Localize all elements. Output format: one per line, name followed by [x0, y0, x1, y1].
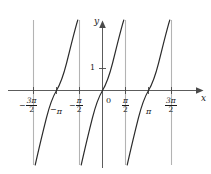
minus-sign: −: [69, 102, 76, 110]
minus-sign: −: [50, 106, 57, 114]
y-tick-label-one: 1: [90, 64, 95, 72]
plot-canvas: [0, 0, 211, 174]
minus-sign: −: [19, 102, 26, 110]
x-axis-label: x: [201, 94, 206, 103]
x-tick-label-3pi-2: 3π2: [165, 97, 177, 114]
pi-glyph: π: [146, 107, 151, 116]
tangent-function-plot: y x 1 −3π2 −π −π2 0 π2 π 3π2: [0, 0, 211, 174]
x-tick-label-pi: π: [146, 101, 151, 117]
fraction-pi-over-2: π2: [76, 97, 83, 114]
x-tick-label-neg-pi-2: −π2: [69, 97, 83, 114]
x-tick-label-neg-3pi-2: −3π2: [19, 97, 37, 114]
fraction-denominator: 2: [165, 106, 177, 114]
fraction-3pi-over-2: 3π2: [26, 97, 38, 114]
fraction-denominator: 2: [76, 106, 83, 114]
y-axis-arrowhead: [99, 21, 106, 29]
fraction-denominator: 2: [26, 106, 38, 114]
fraction-denominator: 2: [122, 106, 129, 114]
pi-glyph: π: [57, 107, 62, 116]
x-tick-label-pi-2: π2: [122, 97, 129, 114]
x-tick-label-neg-pi: −π: [50, 101, 62, 117]
x-tick-label-zero: 0: [106, 97, 111, 105]
y-axis-label: y: [94, 17, 99, 26]
fraction-pi-over-2: π2: [122, 97, 129, 114]
fraction-3pi-over-2: 3π2: [165, 97, 177, 114]
